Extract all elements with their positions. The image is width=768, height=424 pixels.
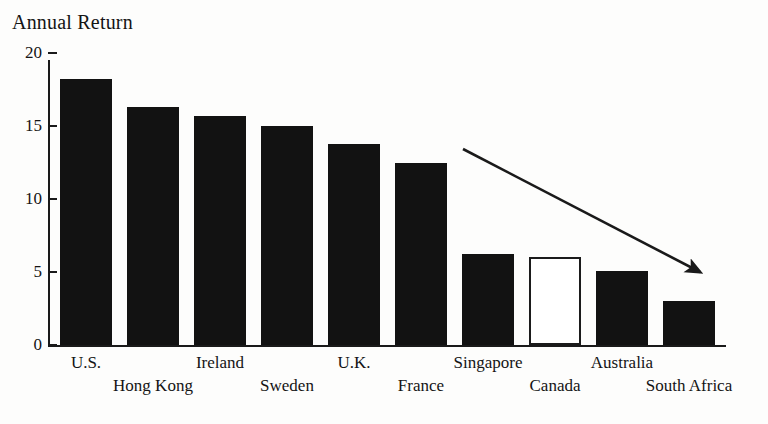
category-label-australia: Australia	[542, 354, 702, 371]
x-axis-line	[48, 345, 726, 347]
bar-australia	[596, 271, 648, 345]
bar-ireland	[194, 116, 246, 345]
bar-canada	[529, 257, 581, 345]
chart-page: Annual Return 05101520 U.S.Hong KongIrel…	[0, 0, 768, 424]
bar-france	[395, 163, 447, 346]
plot-area: 05101520 U.S.Hong KongIrelandSwedenU.K.F…	[0, 0, 768, 424]
bar-singapore	[462, 254, 514, 345]
bar-south-africa	[663, 301, 715, 345]
bar-u-s	[60, 79, 112, 345]
bars-layer	[0, 0, 768, 345]
bar-u-k	[328, 144, 380, 345]
bar-sweden	[261, 126, 313, 345]
bar-hong-kong	[127, 107, 179, 345]
category-label-south-africa: South Africa	[609, 377, 768, 394]
